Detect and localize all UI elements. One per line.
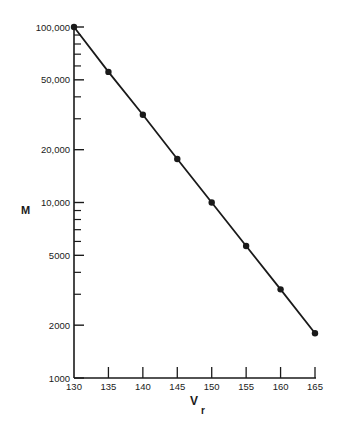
x-tick-label: 145 (169, 381, 185, 392)
data-series (71, 24, 318, 337)
y-tick-label: 2000 (49, 320, 70, 331)
y-tick-label: 20,000 (41, 144, 70, 155)
y-axis: 100,00050,00020,00010,000500020001000 (36, 22, 84, 384)
x-tick-label: 130 (66, 381, 82, 392)
y-tick-label: 100,000 (36, 22, 70, 33)
y-axis-title: M (21, 204, 30, 216)
data-point-marker (277, 286, 283, 292)
x-tick-label: 155 (238, 381, 254, 392)
y-tick-label: 5000 (49, 250, 70, 261)
data-point-marker (312, 330, 318, 336)
x-axis-title: V (190, 394, 198, 408)
x-tick-label: 160 (273, 381, 289, 392)
x-tick-label: 165 (307, 381, 323, 392)
chart-canvas: 100,00050,00020,00010,000500020001000 13… (0, 0, 338, 434)
data-point-marker (140, 112, 146, 118)
data-point-marker (71, 24, 77, 30)
data-point-marker (209, 199, 215, 205)
x-axis-title-subscript: r (201, 405, 205, 416)
y-tick-label: 10,000 (41, 197, 70, 208)
y-tick-label: 50,000 (41, 74, 70, 85)
x-axis: 130135140145150155160165 (66, 367, 323, 392)
x-tick-label: 135 (100, 381, 116, 392)
x-tick-label: 150 (204, 381, 220, 392)
data-point-marker (243, 243, 249, 249)
x-tick-label: 140 (135, 381, 151, 392)
data-point-marker (105, 69, 111, 75)
data-point-marker (174, 156, 180, 162)
